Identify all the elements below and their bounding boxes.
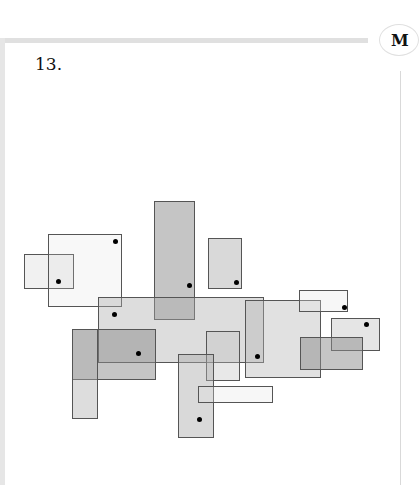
point-dot — [364, 322, 369, 327]
rectangle-r14 — [198, 386, 273, 403]
point-dot — [342, 305, 347, 310]
point-dot — [255, 354, 260, 359]
point-dot — [113, 239, 118, 244]
point-dot — [197, 417, 202, 422]
point-dot — [187, 283, 192, 288]
point-dot — [136, 351, 141, 356]
rectangle-r11 — [300, 337, 363, 370]
point-dot — [112, 312, 117, 317]
point-dot — [234, 280, 239, 285]
rectangle-r9 — [299, 290, 348, 312]
rectangle-r7 — [72, 329, 98, 419]
point-dot — [56, 279, 61, 284]
